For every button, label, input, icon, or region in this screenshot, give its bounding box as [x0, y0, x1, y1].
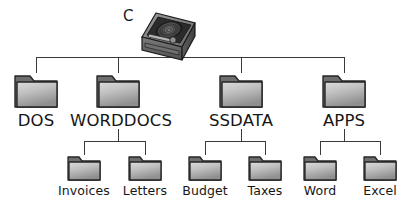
node-excel[interactable]: Excel: [350, 154, 410, 198]
folder-icon: [13, 72, 59, 110]
node-label: Invoices: [54, 185, 114, 198]
node-label: Excel: [350, 185, 410, 198]
node-letters[interactable]: Letters: [115, 154, 175, 198]
node-label: Letters: [115, 185, 175, 198]
node-invoices[interactable]: Invoices: [54, 154, 114, 198]
connector-to-worddocs: [118, 57, 119, 73]
folder-icon: [247, 154, 283, 182]
node-label: Budget: [175, 185, 235, 198]
connector-to-apps: [344, 57, 345, 73]
folder-icon: [321, 72, 367, 110]
connector-to-budget: [205, 141, 206, 155]
ssdata-bus-line: [205, 141, 266, 142]
directory-tree-diagram: C: [0, 0, 414, 210]
node-label: Word: [290, 185, 350, 198]
node-word[interactable]: Word: [290, 154, 350, 198]
connector-to-invoices: [84, 141, 85, 155]
node-label: DOS: [6, 113, 66, 130]
worddocs-bus-line: [84, 141, 146, 142]
node-label: Taxes: [235, 185, 295, 198]
folder-icon: [66, 154, 102, 182]
folder-icon: [302, 154, 338, 182]
folder-icon: [362, 154, 398, 182]
node-dos[interactable]: DOS: [6, 72, 66, 130]
connector-to-word: [320, 141, 321, 155]
folder-icon: [218, 72, 264, 110]
node-ssdata[interactable]: SSDATA: [196, 72, 286, 130]
node-apps[interactable]: APPS: [302, 72, 386, 130]
folder-icon: [127, 154, 163, 182]
connector-to-taxes: [265, 141, 266, 155]
node-budget[interactable]: Budget: [175, 154, 235, 198]
connector-to-ssdata: [241, 57, 242, 73]
node-worddocs[interactable]: WORDDOCS: [70, 72, 166, 130]
node-taxes[interactable]: Taxes: [235, 154, 295, 198]
node-label: SSDATA: [196, 113, 286, 130]
node-label: APPS: [302, 113, 386, 130]
folder-icon: [95, 72, 141, 110]
connector-to-letters: [145, 141, 146, 155]
hard-disk-drive-icon: [138, 10, 200, 68]
apps-bus-line: [320, 141, 381, 142]
node-label: WORDDOCS: [70, 113, 166, 130]
folder-icon: [187, 154, 223, 182]
connector-to-excel: [380, 141, 381, 155]
connector-to-dos: [36, 57, 37, 73]
drive-label-c: C: [123, 9, 134, 24]
